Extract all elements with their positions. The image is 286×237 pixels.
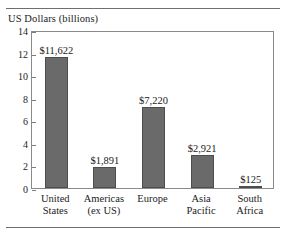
bar-value-label: $2,921	[188, 144, 217, 155]
y-axis-tick	[32, 190, 36, 191]
bar-value-label: $11,622	[39, 46, 73, 57]
y-axis-tick	[32, 77, 36, 78]
figure: US Dollars (billions) 02468101214$11,622…	[0, 0, 286, 237]
y-axis-tick	[32, 100, 36, 101]
bar	[93, 167, 116, 188]
y-axis-tick-label: 6	[23, 117, 28, 127]
plot-inner: 02468101214$11,622$1,891$7,220$2,921$125	[32, 32, 273, 188]
y-axis-tick-label: 14	[18, 27, 28, 37]
y-axis-tick	[32, 32, 36, 33]
x-axis-category-label: Americas(ex US)	[84, 193, 124, 216]
y-axis-tick-label: 0	[23, 185, 28, 195]
top-rule	[6, 8, 280, 9]
y-axis-tick-label: 8	[23, 95, 28, 105]
y-axis-tick	[32, 145, 36, 146]
x-axis-category-label: Europe	[137, 193, 167, 205]
bar	[239, 186, 262, 188]
y-axis-tick	[32, 55, 36, 56]
x-axis-category-label: SouthAfrica	[236, 193, 263, 216]
bar-value-label: $1,891	[90, 156, 119, 167]
y-axis-tick-label: 10	[18, 72, 28, 82]
bar	[191, 155, 214, 188]
bottom-rule	[6, 227, 280, 228]
y-axis-tick	[32, 167, 36, 168]
y-axis-tick-label: 2	[23, 162, 28, 172]
y-axis-tick-label: 4	[23, 140, 28, 150]
y-axis-tick	[32, 122, 36, 123]
bar-value-label: $7,220	[139, 96, 168, 107]
x-axis-category-label: UnitedStates	[41, 193, 70, 216]
y-axis-title: US Dollars (billions)	[8, 13, 98, 24]
bar	[45, 57, 68, 188]
plot-area: 02468101214$11,622$1,891$7,220$2,921$125	[31, 31, 274, 189]
y-axis-tick-label: 12	[18, 50, 28, 60]
bar	[142, 107, 165, 188]
x-axis-category-label: AsiaPacific	[187, 193, 216, 216]
bar-value-label: $125	[240, 175, 261, 186]
